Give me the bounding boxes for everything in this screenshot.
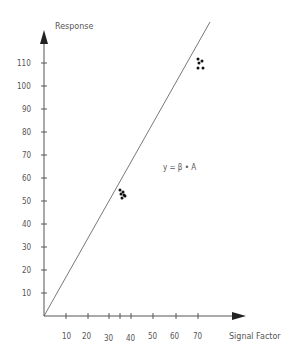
svg-text:20: 20: [22, 266, 32, 275]
data-points-cluster-high: [197, 58, 205, 70]
x-tick-labels: 10 20 30 40 50 60 70: [62, 332, 203, 343]
equation-annotation: y = β • A: [163, 163, 196, 172]
svg-text:50: 50: [22, 197, 32, 206]
y-axis-arrow-icon: [40, 30, 48, 44]
y-tick-labels: 110 100 90 80 70 60 50 40 30 20 10: [17, 59, 32, 298]
svg-text:70: 70: [193, 332, 203, 341]
x-axis-title: Signal Factor: [229, 332, 281, 341]
svg-text:10: 10: [22, 289, 32, 298]
svg-text:110: 110: [17, 59, 31, 68]
svg-text:70: 70: [22, 151, 32, 160]
svg-text:30: 30: [104, 334, 114, 343]
data-points-cluster-low: [119, 189, 127, 200]
svg-text:50: 50: [148, 332, 158, 341]
svg-text:100: 100: [17, 82, 31, 91]
svg-text:40: 40: [22, 220, 32, 229]
svg-text:90: 90: [22, 105, 32, 114]
svg-text:10: 10: [62, 332, 72, 341]
svg-text:20: 20: [82, 332, 92, 341]
svg-text:80: 80: [22, 128, 32, 137]
chart: 110 100 90 80 70 60 50 40 30 20 10 10 20…: [0, 0, 295, 360]
svg-text:60: 60: [22, 174, 32, 183]
svg-text:60: 60: [170, 332, 180, 341]
svg-text:40: 40: [126, 334, 136, 343]
svg-text:30: 30: [22, 243, 32, 252]
y-axis-title: Response: [55, 22, 94, 31]
x-axis-arrow-icon: [232, 312, 246, 320]
